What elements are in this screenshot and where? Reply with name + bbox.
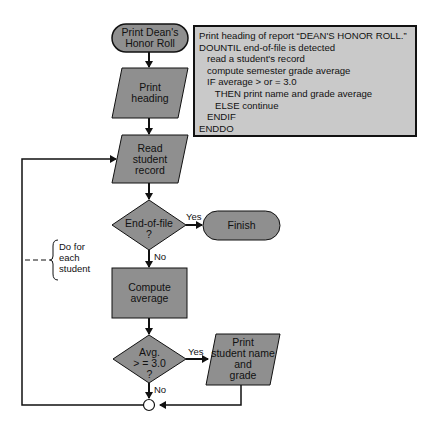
read-record-label: Read student record <box>112 143 188 176</box>
connector-circle <box>144 400 155 411</box>
compute-line2: average <box>112 293 187 304</box>
pseudocode-line: ENDDO <box>199 123 411 135</box>
read-record-line3: record <box>112 165 188 176</box>
pseudocode-line: IF average > or = 3.0 <box>199 76 411 88</box>
avg-yes-label: Yes <box>188 346 204 357</box>
print-heading-line2: heading <box>112 93 188 104</box>
pseudocode-line: ENDIF <box>199 111 411 123</box>
loop-note: Do for each student <box>59 241 90 274</box>
pseudocode-box: Print heading of report “DEAN'S HONOR RO… <box>193 25 417 137</box>
finish-label: Finish <box>203 220 280 231</box>
pseudocode-line: DOUNTIL end-of-file is detected <box>199 42 411 54</box>
print-heading-label: Print heading <box>112 82 188 104</box>
loop-note-line3: student <box>59 263 90 274</box>
pseudocode-line: ELSE continue <box>199 100 411 112</box>
start-label: Print Dean's Honor Roll <box>112 27 188 49</box>
avg-no-label: No <box>154 384 166 395</box>
avg-line3: ? <box>113 369 186 380</box>
loop-note-line2: each <box>59 252 90 263</box>
pseudocode-line: compute semester grade average <box>199 65 411 77</box>
eof-line2: ? <box>112 229 186 240</box>
avg-label: Avg. > = 3.0 ? <box>113 347 186 380</box>
eof-yes-label: Yes <box>186 211 202 222</box>
eof-label: End-of-file ? <box>112 218 186 240</box>
pseudocode-line: THEN print name and grade average <box>199 88 411 100</box>
print-student-line4: grade <box>208 370 278 381</box>
eof-no-label: No <box>154 251 166 262</box>
line-print-to-connector <box>160 385 241 405</box>
pseudocode-line: read a student's record <box>199 53 411 65</box>
compute-label: Compute average <box>112 282 187 304</box>
start-line2: Honor Roll <box>112 38 188 49</box>
pseudocode-line: Print heading of report “DEAN'S HONOR RO… <box>199 30 411 42</box>
note-brace <box>50 240 58 280</box>
print-student-label: Print student name and grade <box>208 337 278 381</box>
loop-note-line1: Do for <box>59 241 90 252</box>
